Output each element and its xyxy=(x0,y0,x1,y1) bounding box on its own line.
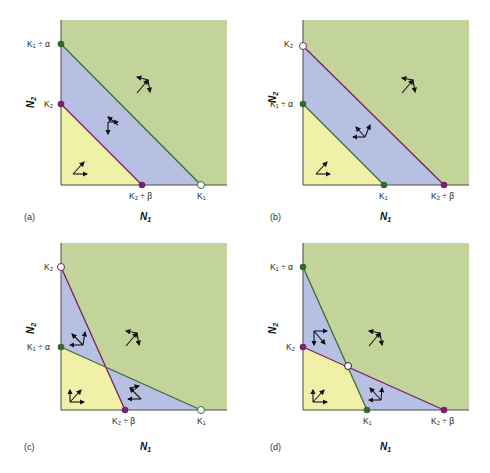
x-axis-title: N1 xyxy=(380,211,391,223)
point-k1-over-alpha xyxy=(300,101,307,108)
x-label-right: K₂ ÷ β xyxy=(431,191,454,201)
point-k1-over-alpha xyxy=(58,41,65,48)
point-k1-over-alpha xyxy=(300,264,307,271)
stable-point-k1 xyxy=(198,182,205,189)
y-axis-title: N2 xyxy=(267,323,279,334)
panel-letter: (d) xyxy=(270,442,281,452)
x-axis-title: N1 xyxy=(380,441,391,453)
y-label-top: K₂ xyxy=(44,262,53,272)
y-label-top: K₂ xyxy=(284,39,293,49)
point-k2 xyxy=(300,344,307,351)
panel-c: K₂ K₁ ÷ α K₂ ÷ β K₁ (c) N1 N2 xyxy=(24,243,227,453)
point-k1 xyxy=(381,182,388,189)
point-k2-over-beta xyxy=(441,407,448,414)
y-label-top: K₁ ÷ α xyxy=(27,39,50,49)
x-label-right: K₁ xyxy=(197,191,206,201)
x-label-right: K₂ ÷ β xyxy=(431,416,454,426)
y-label-mid: K₁ ÷ α xyxy=(27,342,50,352)
competition-isocline-figure: K₁ ÷ α K₂ K₂ ÷ β K₁ (a) N1 N2 K₂ K₁ ÷ α … xyxy=(0,0,490,473)
point-k2-over-beta xyxy=(139,182,146,189)
x-label-mid: K₁ xyxy=(379,191,388,201)
stable-point-k1 xyxy=(198,407,205,414)
x-label-right: K₁ xyxy=(197,416,206,426)
x-label-mid: K₂ ÷ β xyxy=(129,191,152,201)
y-label-mid: K₂ xyxy=(44,99,53,109)
y-label-top: K₁ ÷ α xyxy=(270,262,293,272)
x-label-mid: K₂ ÷ β xyxy=(112,416,135,426)
y-label-mid: K₂ xyxy=(286,342,295,352)
point-k2 xyxy=(58,101,65,108)
point-k2-over-beta xyxy=(122,407,129,414)
y-axis-title: N2 xyxy=(25,323,37,334)
y-axis-title: N2 xyxy=(267,92,279,103)
stable-point-k2 xyxy=(300,43,307,50)
panel-letter: (c) xyxy=(24,442,35,452)
x-label-mid: K₁ xyxy=(363,416,372,426)
panel-d: K₁ ÷ α K₂ K₁ K₂ ÷ β (d) N1 N2 xyxy=(267,243,469,453)
panel-a: K₁ ÷ α K₂ K₂ ÷ β K₁ (a) N1 N2 xyxy=(24,20,227,223)
point-k1 xyxy=(364,407,371,414)
panel-letter: (b) xyxy=(270,212,281,222)
point-k1-over-alpha xyxy=(58,344,65,351)
panel-b: K₂ K₁ ÷ α K₁ K₂ ÷ β (b) N1 N2 xyxy=(267,20,469,223)
y-axis-title: N2 xyxy=(25,97,37,108)
coexistence-equilibrium-point xyxy=(345,363,352,370)
panel-letter: (a) xyxy=(24,212,35,222)
point-k2-over-beta xyxy=(441,182,448,189)
x-axis-title: N1 xyxy=(140,211,151,223)
x-axis-title: N1 xyxy=(140,441,151,453)
stable-point-k2 xyxy=(58,264,65,271)
